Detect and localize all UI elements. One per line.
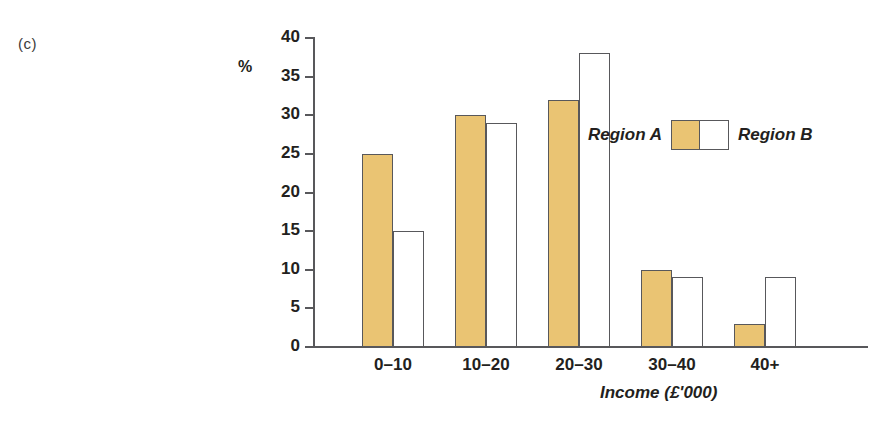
figure-root: (c) % 0510152025303540 0–1010–2020–3030–… [0,0,886,430]
x-axis-tick-label: 30–40 [627,355,717,375]
bar-region-b-0 [393,231,424,347]
chart-legend: Region A Region B [588,118,813,152]
x-axis-tick-label: 10–20 [441,355,531,375]
bar-region-a-1 [455,115,486,347]
y-axis-tick-label: 0 [262,336,300,356]
y-axis-tick-label: 20 [262,182,300,202]
bar-region-a-3 [641,270,672,347]
legend-swatch-region-a [671,120,700,150]
bar-region-b-4 [765,277,796,347]
bar-region-a-4 [734,324,765,347]
legend-swatches [671,120,729,150]
bar-region-a-2 [548,100,579,347]
x-axis-tick-label: 40+ [720,355,810,375]
x-axis-tick-label: 20–30 [534,355,624,375]
y-axis-tick-label: 5 [262,297,300,317]
plot-area [313,38,868,347]
bar-region-a-0 [362,154,393,347]
bar-region-b-2 [579,53,610,347]
legend-label-region-a: Region A [588,125,662,145]
x-axis-title: Income (£'000) [600,383,717,403]
y-axis-tick-label: 10 [262,259,300,279]
y-axis-tick-label: 40 [262,27,300,47]
y-axis-tick-label: 15 [262,220,300,240]
panel-label: (c) [18,35,37,52]
y-axis-tick-label: 30 [262,104,300,124]
legend-swatch-region-b [700,120,729,150]
x-axis-tick-label: 0–10 [348,355,438,375]
y-axis-title: % [238,58,252,76]
bar-region-b-3 [672,277,703,347]
y-axis-tick-label: 35 [262,66,300,86]
legend-label-region-b: Region B [738,125,813,145]
y-axis-tick-label: 25 [262,143,300,163]
bar-region-b-1 [486,123,517,347]
